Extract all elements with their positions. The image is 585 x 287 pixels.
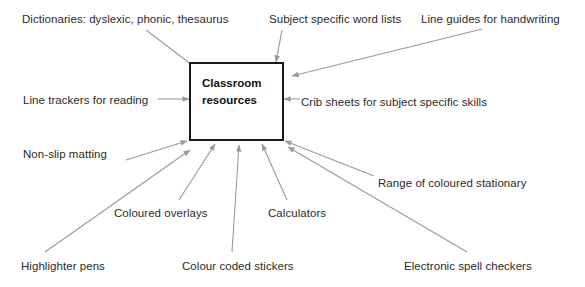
label-line-guides-for-handwriting: Line guides for handwriting bbox=[421, 12, 560, 26]
label-subject-specific-word-lists: Subject specific word lists bbox=[269, 12, 401, 26]
connector-arrow-word-lists bbox=[276, 30, 282, 62]
label-coloured-overlays: Coloured overlays bbox=[114, 206, 208, 220]
connector-arrow-coloured-stationary bbox=[285, 141, 374, 176]
connector-arrow-highlighter-pens bbox=[45, 150, 190, 252]
connector-arrow-line-guides bbox=[292, 29, 482, 76]
diagram-canvas: Classroom resources Dictionaries: dyslex… bbox=[0, 0, 585, 287]
center-node-classroom-resources: Classroom resources bbox=[189, 62, 284, 141]
connector-arrow-non-slip-matting bbox=[126, 141, 187, 160]
label-range-of-coloured-stationary: Range of coloured stationary bbox=[378, 176, 526, 190]
label-colour-coded-stickers: Colour coded stickers bbox=[182, 259, 294, 273]
label-electronic-spell-checkers: Electronic spell checkers bbox=[404, 259, 532, 273]
connector-arrow-colour-coded-stickers bbox=[232, 145, 239, 252]
label-calculators: Calculators bbox=[268, 206, 326, 220]
label-highlighter-pens: Highlighter pens bbox=[21, 259, 105, 273]
connector-arrow-electronic-spell-checkers bbox=[288, 147, 467, 252]
label-non-slip-matting: Non-slip matting bbox=[23, 147, 107, 161]
center-node-label: Classroom resources bbox=[202, 75, 276, 109]
arrow-layer bbox=[0, 0, 585, 287]
label-line-trackers-for-reading: Line trackers for reading bbox=[23, 93, 148, 107]
label-crib-sheets: Crib sheets for subject specific skills bbox=[301, 95, 487, 109]
connector-arrow-calculators bbox=[262, 144, 287, 200]
connector-arrow-coloured-overlays bbox=[179, 144, 215, 200]
label-dictionaries: Dictionaries: dyslexic, phonic, thesauru… bbox=[22, 12, 229, 26]
